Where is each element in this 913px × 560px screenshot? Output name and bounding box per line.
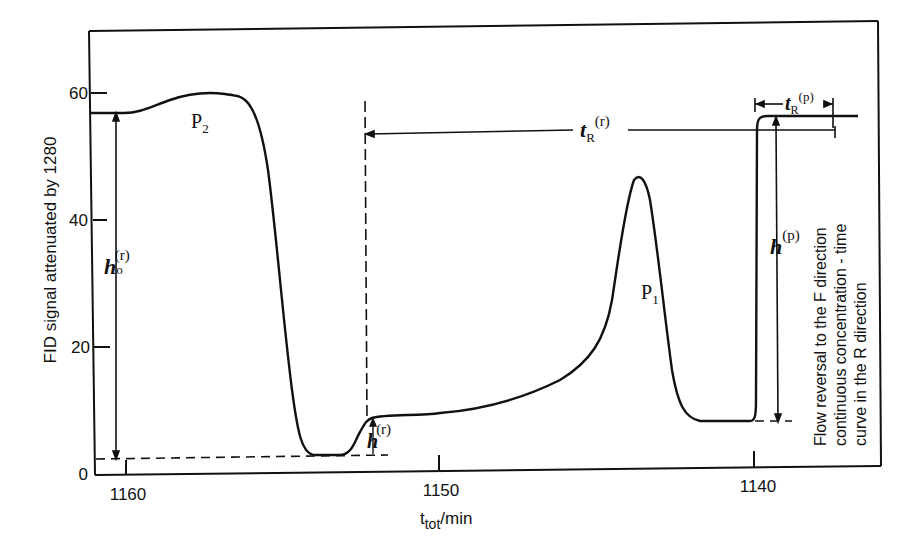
y-axis-line	[89, 31, 95, 475]
y-tick-40: 40	[69, 211, 88, 230]
note-line-1: Flow reversal to the F direction	[812, 227, 829, 446]
y-tick-labels: 60 40 20 0	[69, 84, 90, 484]
y-tick-0: 0	[79, 465, 88, 484]
flow-reversal-note: Flow reversal to the F direction continu…	[812, 224, 869, 446]
tRr-label: tR(r)	[580, 113, 610, 145]
h0r-arrow	[113, 113, 119, 459]
y-axis-title: FID signal attenuated by 1280	[41, 137, 60, 364]
note-line-2: continuous concentration - time	[832, 224, 849, 446]
y-tick-20: 20	[71, 338, 90, 357]
hp-arrow	[773, 117, 781, 422]
note-line-3: curve in the R direction	[852, 282, 869, 446]
frame-top	[89, 21, 878, 31]
peak-p1-label: P1	[641, 281, 659, 307]
retention-dashed-line	[365, 101, 367, 422]
chromatogram-chart: 60 40 20 0 1160 1150 1140 ttot/min FID s…	[0, 0, 913, 560]
x-axis-title: ttot/min	[420, 509, 472, 532]
frame-right	[878, 21, 881, 466]
x-tick-labels: 1160 1150 1140	[110, 477, 777, 504]
h0r-label: ho(r)	[104, 247, 130, 279]
baseline-dashes	[96, 421, 792, 459]
y-ticks	[91, 93, 110, 347]
x-tick-1140: 1140	[740, 477, 777, 496]
signal-curve	[91, 93, 858, 455]
x-tick-1160: 1160	[110, 485, 147, 504]
x-tick-1150: 1150	[423, 481, 460, 500]
tRp-label: tR(p)	[785, 89, 814, 117]
y-tick-60: 60	[69, 84, 88, 103]
x-axis-line	[95, 466, 881, 475]
peak-p2-label: P2	[191, 110, 209, 136]
hp-label: h(p)	[770, 227, 800, 259]
